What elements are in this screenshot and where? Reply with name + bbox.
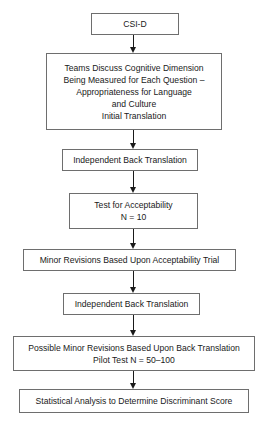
step-text: and Culture [112, 98, 156, 110]
connector-line [133, 35, 134, 47]
step-text: Test for Acceptability [94, 199, 172, 211]
connector-line [133, 229, 134, 243]
step-text: Pilot Test N = 50–100 [93, 354, 175, 366]
connector-line [133, 271, 134, 287]
step-text: Statistical Analysis to Determine Discri… [36, 395, 233, 407]
connector-line [133, 371, 134, 383]
step-text: Teams Discuss Cognitive Dimension [65, 62, 204, 74]
step-text: Independent Back Translation [75, 298, 189, 310]
step-statistical-analysis: Statistical Analysis to Determine Discri… [19, 389, 249, 413]
step-text: Being Measured for Each Question – [64, 74, 205, 86]
step-text: Minor Revisions Based Upon Acceptability… [40, 254, 220, 266]
step-text: Independent Back Translation [73, 154, 187, 166]
connector-line [133, 315, 134, 330]
step-csi-d: CSI-D [91, 13, 179, 35]
step-possible-minor-revisions-pilot: Possible Minor Revisions Based Upon Back… [13, 336, 255, 371]
step-text: CSI-D [123, 18, 146, 30]
step-text: Possible Minor Revisions Based Upon Back… [28, 342, 240, 354]
connector-line [133, 130, 134, 143]
step-teams-discuss: Teams Discuss Cognitive Dimension Being … [46, 53, 222, 130]
step-text: Initial Translation [102, 110, 167, 122]
step-text: N = 10 [121, 211, 147, 223]
connector-line [133, 171, 134, 187]
step-independent-back-translation-1: Independent Back Translation [62, 149, 198, 171]
step-minor-revisions-acceptability: Minor Revisions Based Upon Acceptability… [23, 249, 236, 271]
step-text: Appropriateness for Language [76, 86, 192, 98]
step-independent-back-translation-2: Independent Back Translation [63, 293, 200, 315]
step-test-acceptability: Test for Acceptability N = 10 [69, 193, 198, 229]
